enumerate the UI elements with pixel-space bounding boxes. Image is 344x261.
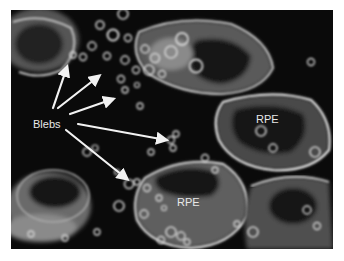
rpe-label-lower: RPE [177, 196, 200, 208]
cell-top-right [136, 20, 273, 94]
cell-bottom-right [245, 177, 333, 249]
arrows [53, 67, 166, 179]
cell-rpe-upper [216, 94, 330, 170]
arrow-3 [70, 99, 113, 114]
blebs-label: Blebs [33, 118, 61, 130]
arrow-4 [78, 124, 166, 140]
arrow-5 [66, 130, 127, 179]
micrograph-figure: Blebs RPE RPE [11, 10, 333, 249]
arrow-2 [58, 76, 99, 108]
rpe-label-upper: RPE [256, 113, 279, 125]
